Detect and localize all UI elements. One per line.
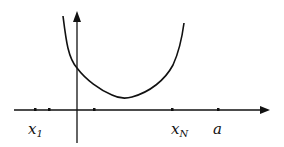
label-xN: xN (171, 120, 189, 139)
x-axis-arrow-icon (260, 106, 270, 114)
tick-a (217, 108, 220, 111)
y-axis-arrow-icon (73, 11, 81, 22)
diagram-canvas: x1 xN a (0, 0, 284, 147)
tick-3 (93, 108, 96, 111)
label-x1: x1 (28, 120, 43, 139)
tick-2 (48, 108, 51, 111)
convex-curve (63, 16, 184, 98)
tick-x1 (34, 108, 37, 111)
x-axis (14, 106, 270, 114)
tick-xN (171, 108, 174, 111)
y-axis (73, 11, 81, 143)
label-a: a (213, 120, 222, 138)
